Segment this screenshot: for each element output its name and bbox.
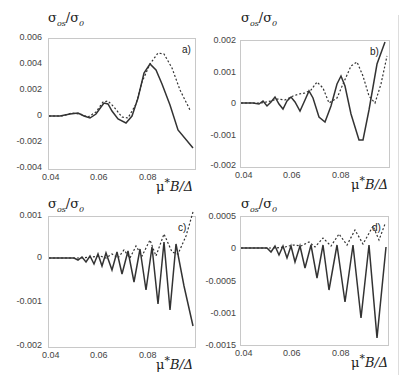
panel-c: σos/σ0 0.001 0 -0.001 -0.002 0.04 0.06 0… <box>0 190 205 385</box>
plot-curves <box>205 0 411 195</box>
plot-curves <box>0 190 205 385</box>
plot-curves <box>0 0 205 195</box>
panel-b: σos/σ0 0.002 0.001 0 -0.001 -0.002 0.04 … <box>205 0 411 195</box>
panel-a: σos/σ0 0.006 0.004 0.002 0 -0.002 -0.004… <box>0 0 205 195</box>
plot-curves <box>205 190 411 385</box>
panel-d: σos/σ0 0.0005 0 -0.0005 -0.001 -0.0015 0… <box>205 190 411 385</box>
